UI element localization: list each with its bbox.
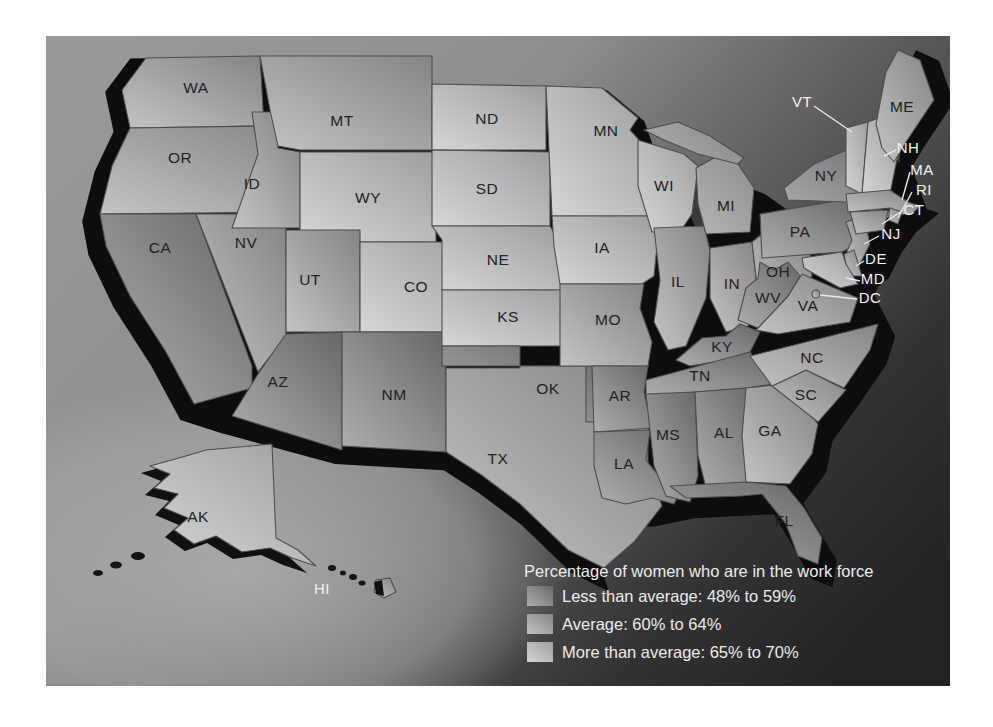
- label-in: IN: [724, 275, 741, 292]
- legend-title: Percentage of women who are in the work …: [524, 562, 873, 580]
- label-mn: MN: [593, 122, 618, 139]
- label-vt: VT: [792, 93, 812, 110]
- hawaii-island: [340, 571, 346, 576]
- label-de: DE: [865, 250, 887, 267]
- label-sd: SD: [476, 180, 499, 197]
- label-hi: HI: [314, 580, 330, 597]
- label-wa: WA: [183, 79, 209, 96]
- label-mo: MO: [595, 311, 621, 328]
- label-dc: DC: [859, 289, 882, 306]
- label-ny: NY: [815, 167, 838, 184]
- label-al: AL: [714, 424, 734, 441]
- label-or: OR: [168, 149, 192, 166]
- label-oh: OH: [766, 263, 790, 280]
- label-ga: GA: [758, 422, 782, 439]
- state-mt: [260, 56, 432, 150]
- label-ia: IA: [594, 239, 610, 256]
- label-wi: WI: [654, 177, 674, 194]
- label-ms: MS: [656, 426, 680, 443]
- label-va: VA: [798, 297, 819, 314]
- label-ok: OK: [536, 380, 560, 397]
- label-mi: MI: [717, 197, 735, 214]
- label-sc: SC: [795, 386, 818, 403]
- label-nc: NC: [800, 349, 823, 366]
- label-ri: RI: [916, 181, 932, 198]
- map-panel: WA OR CA NV ID MT WY UT CO AZ NM ND SD N…: [46, 36, 950, 686]
- label-md: MD: [861, 270, 885, 287]
- label-az: AZ: [268, 373, 289, 390]
- label-me: ME: [890, 98, 914, 115]
- label-nh: NH: [897, 139, 920, 156]
- label-nj: NJ: [881, 225, 900, 242]
- legend-item-more: More than average: 65% to 70%: [562, 643, 799, 661]
- legend-swatch-more: [527, 642, 553, 662]
- aleutian-island: [110, 562, 122, 569]
- label-wy: WY: [355, 189, 381, 206]
- aleutian-island: [131, 552, 145, 560]
- label-ak: AK: [187, 508, 209, 525]
- label-il: IL: [671, 273, 685, 290]
- hawaii-island: [359, 581, 366, 586]
- aleutian-island: [93, 570, 103, 576]
- legend-swatch-average: [527, 614, 553, 634]
- state-ut: [286, 230, 360, 332]
- label-ma: MA: [910, 161, 934, 178]
- label-nm: NM: [381, 386, 406, 403]
- label-co: CO: [404, 278, 428, 295]
- legend-item-less: Less than average: 48% to 59%: [562, 587, 796, 605]
- label-mt: MT: [330, 112, 353, 129]
- label-la: LA: [614, 455, 634, 472]
- label-ut: UT: [299, 271, 321, 288]
- label-ar: AR: [609, 387, 632, 404]
- label-tx: TX: [488, 450, 509, 467]
- legend-item-average: Average: 60% to 64%: [562, 615, 722, 633]
- label-nd: ND: [475, 110, 498, 127]
- label-ky: KY: [711, 338, 733, 355]
- label-ne: NE: [487, 251, 510, 268]
- label-nv: NV: [235, 234, 258, 251]
- label-fl: FL: [774, 512, 793, 529]
- us-choropleth-map: WA OR CA NV ID MT WY UT CO AZ NM ND SD N…: [46, 36, 950, 686]
- legend-swatch-less: [527, 586, 553, 606]
- label-ks: KS: [497, 308, 519, 325]
- label-id: ID: [244, 175, 261, 192]
- label-pa: PA: [790, 223, 811, 240]
- label-wv: WV: [755, 289, 781, 306]
- hawaii-island: [349, 574, 357, 580]
- label-ct: CT: [904, 201, 925, 218]
- label-ca: CA: [149, 239, 172, 256]
- label-tn: TN: [689, 367, 711, 384]
- hawaii-island: [328, 565, 336, 571]
